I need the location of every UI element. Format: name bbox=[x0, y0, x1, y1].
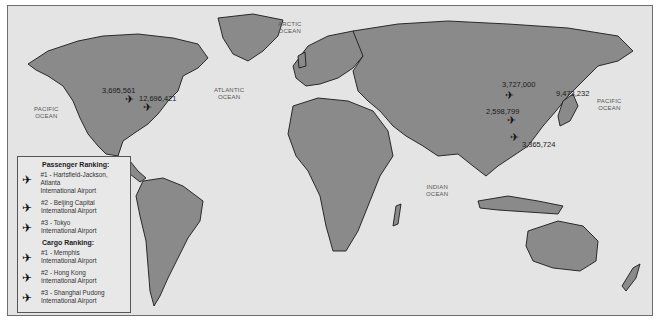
australia bbox=[526, 221, 598, 271]
asia bbox=[353, 21, 633, 176]
legend-airport: International Airport bbox=[41, 277, 96, 285]
legend-airport: International Airport bbox=[41, 297, 105, 305]
legend-airport: International Airport bbox=[41, 227, 96, 235]
ocean-label-pacific-east: PACIFIC OCEAN bbox=[597, 98, 622, 112]
legend-rank: #1 - Memphis bbox=[41, 249, 96, 257]
plane-icon-memphis: ✈ bbox=[143, 102, 152, 113]
ocean-label-pacific-west: PACIFIC OCEAN bbox=[34, 106, 59, 120]
legend: Passenger Ranking: ✈ #1 - Hartsfield-Jac… bbox=[17, 156, 131, 313]
legend-airport: International Airport bbox=[41, 187, 126, 195]
stat-hong-kong: 3,365,724 bbox=[522, 140, 555, 149]
plane-icon-beijing: ✈ bbox=[505, 90, 514, 101]
plane-icon: ✈ bbox=[22, 221, 36, 235]
africa bbox=[288, 98, 393, 251]
ocean-label-indian: INDIAN OCEAN bbox=[426, 184, 448, 198]
legend-airport: International Airport bbox=[41, 257, 96, 265]
madagascar bbox=[393, 204, 401, 226]
plane-icon: ✈ bbox=[22, 271, 36, 285]
legend-rank: #2 - Hong Kong bbox=[41, 269, 96, 277]
stat-tokyo: 9,473,232 bbox=[556, 89, 589, 98]
legend-item-passenger-3: ✈ #3 - TokyoInternational Airport bbox=[22, 219, 126, 235]
legend-item-cargo-1: ✈ #1 - MemphisInternational Airport bbox=[22, 249, 126, 265]
ocean-label-arctic: ARCTIC OCEAN bbox=[278, 21, 302, 35]
legend-item-cargo-3: ✈ #3 - Shanghai PudongInternational Airp… bbox=[22, 289, 126, 305]
legend-airport: International Airport bbox=[41, 207, 96, 215]
legend-item-passenger-2: ✈ #2 - Beijing CapitalInternational Airp… bbox=[22, 199, 126, 215]
plane-icon-hong-kong: ✈ bbox=[510, 132, 519, 143]
greenland bbox=[218, 14, 283, 61]
stat-beijing: 3,727,000 bbox=[502, 80, 535, 89]
world-map-frame: ARCTIC OCEAN ATLANTIC OCEAN PACIFIC OCEA… bbox=[7, 5, 653, 316]
south-america bbox=[136, 178, 203, 306]
legend-cargo-heading: Cargo Ranking: bbox=[42, 239, 126, 246]
indonesia bbox=[478, 196, 563, 214]
legend-item-passenger-1: ✈ #1 - Hartsfield-Jackson, AtlantaIntern… bbox=[22, 171, 126, 195]
legend-rank: #3 - Tokyo bbox=[41, 219, 96, 227]
plane-icon-atlanta: ✈ bbox=[125, 94, 134, 105]
plane-icon: ✈ bbox=[22, 251, 36, 265]
plane-icon: ✈ bbox=[22, 201, 36, 215]
north-america bbox=[28, 34, 208, 156]
ocean-label-atlantic: ATLANTIC OCEAN bbox=[214, 87, 244, 101]
new-zealand bbox=[622, 264, 640, 291]
legend-rank: #1 - Hartsfield-Jackson, Atlanta bbox=[41, 171, 126, 187]
legend-passenger-heading: Passenger Ranking: bbox=[42, 161, 126, 168]
legend-rank: #2 - Beijing Capital bbox=[41, 199, 96, 207]
legend-rank: #3 - Shanghai Pudong bbox=[41, 289, 105, 297]
legend-item-cargo-2: ✈ #2 - Hong KongInternational Airport bbox=[22, 269, 126, 285]
plane-icon-shanghai: ✈ bbox=[507, 115, 516, 126]
uk bbox=[298, 52, 306, 68]
plane-icon: ✈ bbox=[22, 291, 36, 305]
plane-icon: ✈ bbox=[22, 173, 36, 187]
